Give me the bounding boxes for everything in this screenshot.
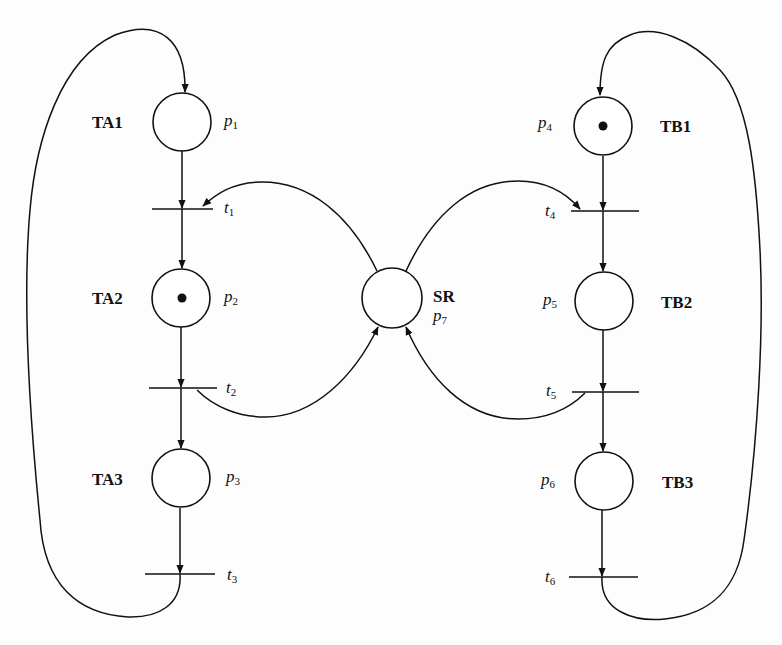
label-ta1: TA1 [92, 113, 123, 132]
label-t4: t4 [545, 201, 556, 221]
label-p1: p1 [223, 111, 238, 131]
petri-net-svg: TA1 TA2 TA3 TB1 TB2 TB3 SR p1 p2 p3 p4 p… [0, 0, 782, 645]
label-tb2: TB2 [661, 293, 692, 312]
label-t2: t2 [226, 378, 236, 398]
label-tb3: TB3 [662, 473, 693, 492]
place-p5[interactable] [575, 272, 633, 330]
arc-t5-p7 [406, 327, 585, 419]
label-p3: p3 [225, 467, 241, 487]
arc-p7-t1 [203, 182, 377, 271]
label-ta3: TA3 [92, 470, 123, 489]
label-ta2: TA2 [92, 289, 123, 308]
label-p5: p5 [542, 290, 558, 310]
transition-labels: t1 t2 t3 t4 t5 t6 [224, 198, 557, 587]
label-t5: t5 [546, 381, 557, 401]
token-p2 [178, 294, 187, 303]
label-sr: SR [433, 287, 455, 306]
arc-p7-t4 [406, 181, 580, 271]
place-p3[interactable] [152, 449, 210, 507]
label-p4: p4 [537, 113, 553, 133]
arc-t2-p7 [197, 327, 378, 417]
label-p7: p7 [432, 306, 448, 326]
label-p6: p6 [540, 470, 556, 490]
label-p2: p2 [223, 287, 238, 307]
place-p7-sr[interactable] [362, 268, 422, 328]
place-p1[interactable] [153, 93, 211, 151]
token-p4 [599, 122, 608, 131]
label-t3: t3 [227, 565, 238, 585]
label-t6: t6 [545, 567, 556, 587]
petri-net-diagram: TA1 TA2 TA3 TB1 TB2 TB3 SR p1 p2 p3 p4 p… [0, 0, 782, 645]
transitions [145, 209, 639, 577]
label-t1: t1 [224, 198, 234, 218]
place-p6[interactable] [575, 452, 633, 510]
label-tb1: TB1 [660, 117, 691, 136]
